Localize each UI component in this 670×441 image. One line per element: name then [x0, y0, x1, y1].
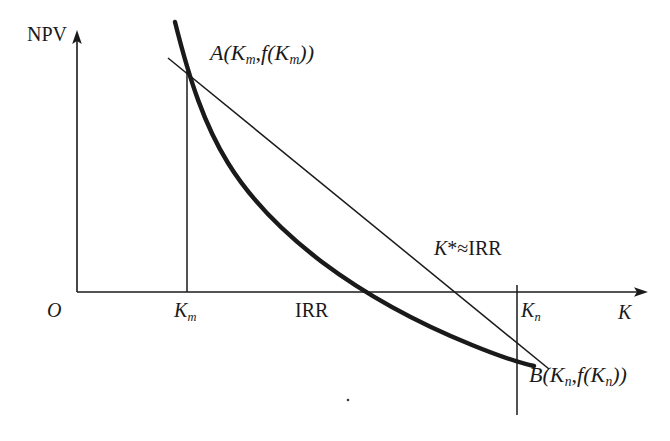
km-k: K — [174, 299, 187, 321]
km-tick-label: Km — [174, 300, 197, 323]
irr-tick-label: IRR — [295, 300, 328, 320]
x-axis-label: K — [618, 302, 631, 322]
k-star-k: K — [434, 237, 447, 259]
kn-k: K — [521, 299, 534, 321]
point-a-sub1: m — [246, 52, 256, 67]
point-b-f: f( — [577, 362, 590, 387]
npv-curve — [175, 22, 534, 366]
point-b-k2: K — [590, 362, 605, 387]
scan-speck — [347, 399, 350, 402]
kn-sub: n — [535, 310, 541, 324]
point-a-k2: K — [275, 40, 290, 65]
point-a-label: A(Km,f(Km)) — [210, 42, 314, 67]
point-b-label: B(Kn,f(Kn)) — [529, 364, 627, 389]
point-a-sub2: m — [289, 52, 299, 67]
npv-irr-figure: NPV A(Km,f(Km)) K*≈IRR O Km IRR Kn K B(K… — [0, 0, 670, 441]
point-a-suffix: )) — [299, 40, 314, 65]
point-a-k: K — [231, 40, 246, 65]
approx-icon: ≈ — [457, 237, 468, 259]
y-axis-label: NPV — [27, 24, 67, 44]
k-star-label: K*≈IRR — [434, 238, 502, 258]
point-a-prefix: A( — [210, 40, 231, 65]
point-b-suffix: )) — [612, 362, 627, 387]
point-a-f: f( — [261, 40, 274, 65]
origin-label: O — [47, 300, 61, 320]
point-b-k: K — [550, 362, 565, 387]
secant-line-ab — [168, 58, 549, 369]
k-star-asterisk: * — [447, 237, 457, 259]
kn-tick-label: Kn — [521, 300, 541, 323]
km-sub: m — [188, 310, 197, 324]
point-b-sub1: n — [565, 374, 572, 389]
k-star-irr: IRR — [468, 237, 501, 259]
y-axis — [72, 30, 82, 292]
point-b-prefix: B( — [529, 362, 550, 387]
